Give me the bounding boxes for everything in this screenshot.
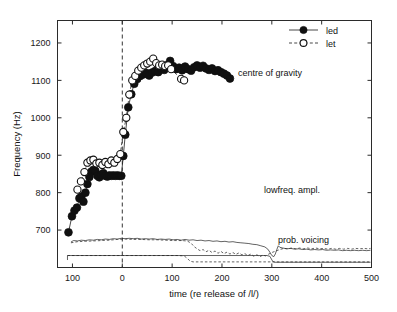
chart-background	[0, 0, 397, 312]
cog-point-let	[126, 91, 133, 98]
y-tick-label: 900	[35, 151, 50, 161]
y-tick-label: 1000	[30, 113, 50, 123]
cog-point-led	[226, 75, 234, 83]
cog-point-let	[117, 151, 124, 158]
chart-figure: 700800900100011001200 100010020030040050…	[0, 0, 397, 312]
y-axis-title: Frequency (Hz)	[11, 111, 22, 176]
x-tick-label: 100	[65, 273, 80, 283]
cog-point-let	[74, 186, 81, 193]
x-tick-label: 300	[264, 273, 279, 283]
cog-point-let	[81, 168, 88, 175]
cog-point-let	[181, 77, 188, 84]
legend-let-label: let	[326, 39, 336, 49]
y-tick-label: 800	[35, 188, 50, 198]
cog-point-led	[80, 198, 88, 206]
y-tick-label: 700	[35, 225, 50, 235]
cog-point-let	[77, 178, 84, 185]
cog-point-let	[168, 66, 175, 73]
annotation-centre-of-gravity: centre of gravity	[238, 68, 303, 78]
cog-point-led	[117, 172, 125, 180]
x-tick-label: 200	[214, 273, 229, 283]
y-tick-label: 1200	[30, 38, 50, 48]
x-tick-label: 0	[120, 273, 125, 283]
legend-let-marker	[300, 40, 307, 47]
cog-point-let	[120, 128, 127, 135]
x-axis-title: time (re release of /l/)	[169, 288, 259, 299]
x-tick-label: 100	[165, 273, 180, 283]
y-tick-label: 1100	[31, 76, 50, 86]
legend-led-label: led	[326, 26, 338, 36]
cog-point-led	[73, 204, 81, 212]
chart-plot-svg: 700800900100011001200 100010020030040050…	[0, 0, 397, 312]
cog-point-led	[124, 103, 132, 111]
cog-point-led	[65, 228, 73, 236]
legend-led-marker	[300, 26, 307, 33]
annotation-prob-voicing: prob. voicing	[278, 235, 329, 245]
x-tick-label: 400	[314, 273, 329, 283]
x-tick-label: 500	[364, 273, 379, 283]
annotation-lowfreq-ampl: lowfreq. ampl.	[264, 185, 320, 195]
cog-point-led	[82, 189, 90, 197]
cog-point-let	[123, 114, 130, 121]
